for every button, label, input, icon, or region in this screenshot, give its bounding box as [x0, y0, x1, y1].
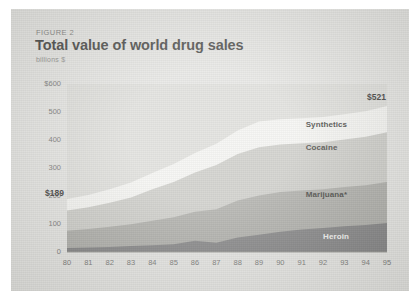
x-axis-tick-94: 94	[356, 258, 376, 267]
y-axis-tick-0: 0	[29, 247, 61, 256]
y-axis-tick-600: $600	[29, 79, 61, 88]
callout-end-value: $521	[367, 92, 386, 102]
x-axis-tick-88: 88	[228, 258, 248, 267]
y-axis-tick-100: 100	[29, 219, 61, 228]
x-axis-tick-84: 84	[142, 258, 162, 267]
x-axis-tick-86: 86	[185, 258, 205, 267]
chart-plot-area: 0100200300400500$600 8081828384858687888…	[11, 9, 409, 291]
x-axis-tick-80: 80	[57, 258, 77, 267]
x-axis-tick-87: 87	[206, 258, 226, 267]
x-axis-tick-95: 95	[377, 258, 397, 267]
y-axis-tick-300: 300	[29, 163, 61, 172]
x-axis-tick-85: 85	[164, 258, 184, 267]
stacked-area-chart	[11, 9, 409, 291]
x-axis-tick-81: 81	[78, 258, 98, 267]
callout-start-value: $189	[45, 188, 64, 198]
y-axis-tick-400: 400	[29, 135, 61, 144]
x-axis-tick-93: 93	[334, 258, 354, 267]
series-label-cocaine: Cocaine	[306, 143, 338, 152]
series-label-heroin: Heroin	[323, 232, 349, 241]
series-label-marijuana: Marijuana*	[306, 190, 347, 199]
series-label-synthetics: Synthetics	[306, 120, 347, 129]
x-axis-tick-82: 82	[100, 258, 120, 267]
x-axis-tick-89: 89	[249, 258, 269, 267]
y-axis-tick-500: 500	[29, 107, 61, 116]
x-axis-tick-83: 83	[121, 258, 141, 267]
x-axis-tick-90: 90	[270, 258, 290, 267]
figure-card: FIGURE 2 Total value of world drug sales…	[11, 9, 409, 291]
x-axis-tick-92: 92	[313, 258, 333, 267]
x-axis-tick-91: 91	[292, 258, 312, 267]
